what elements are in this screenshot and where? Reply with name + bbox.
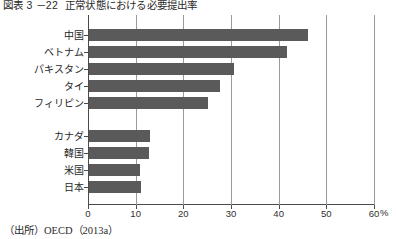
bar-ベトナム <box>89 46 287 58</box>
y-tick <box>84 187 88 188</box>
bar-タイ <box>89 80 220 92</box>
bar-フィリピン <box>89 97 208 109</box>
category-label-中国: 中国 <box>64 29 84 42</box>
source-note: （出所）OECD（2013a） <box>4 222 118 237</box>
category-label-日本: 日本 <box>64 181 84 194</box>
bar-row: 日本 <box>0 179 396 196</box>
category-label-パキスタン: パキスタン <box>34 63 84 76</box>
bar-row: ベトナム <box>0 44 396 61</box>
category-label-韓国: 韓国 <box>64 147 84 160</box>
bar-row: タイ <box>0 78 396 95</box>
figure-title: 図表 3 －22 正常状態における必要提出率 <box>3 0 198 12</box>
bar-row: 中国 <box>0 27 396 44</box>
bar-row: フィリピン <box>0 95 396 112</box>
y-tick <box>84 170 88 171</box>
category-label-カナダ: カナダ <box>54 130 84 143</box>
y-tick <box>84 52 88 53</box>
y-tick <box>84 103 88 104</box>
bar-row: カナダ <box>0 128 396 145</box>
bar-中国 <box>89 29 308 41</box>
bar-韓国 <box>89 147 149 159</box>
bar-米国 <box>89 164 140 176</box>
y-tick <box>84 153 88 154</box>
y-tick <box>84 86 88 87</box>
category-rows: 中国ベトナムパキスタンタイフィリピンカナダ韓国米国日本 <box>0 27 396 217</box>
y-tick <box>84 69 88 70</box>
category-label-フィリピン: フィリピン <box>34 97 84 110</box>
bar-row: パキスタン <box>0 61 396 78</box>
bar-chart: 0102030405060 % 中国ベトナムパキスタンタイフィリピンカナダ韓国米… <box>0 12 396 212</box>
category-label-ベトナム: ベトナム <box>44 46 84 59</box>
bar-row: 韓国 <box>0 145 396 162</box>
category-label-米国: 米国 <box>64 164 84 177</box>
figure-number: 図表 3 －22 <box>3 0 58 12</box>
y-tick <box>84 136 88 137</box>
bar-日本 <box>89 181 141 193</box>
y-tick <box>84 35 88 36</box>
bar-カナダ <box>89 130 150 142</box>
bar-パキスタン <box>89 63 234 75</box>
figure-title-text: 正常状態における必要提出率 <box>65 0 198 12</box>
category-label-タイ: タイ <box>64 80 84 93</box>
bar-row: 米国 <box>0 162 396 179</box>
